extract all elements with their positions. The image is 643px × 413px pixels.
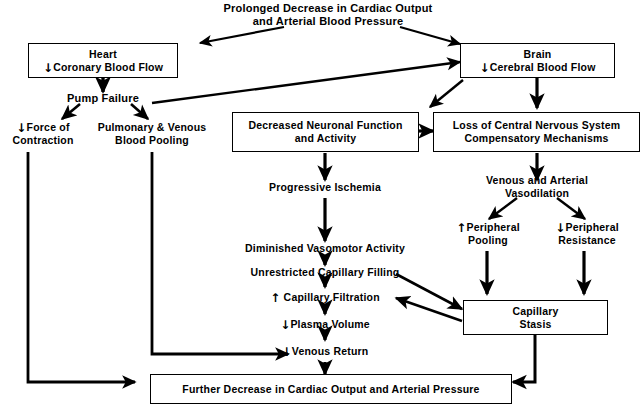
node-peripheral-pooling: ↑Peripheral Pooling bbox=[440, 221, 536, 247]
peripheral-pooling-label-1: Peripheral bbox=[466, 221, 519, 233]
node-progressive-ischemia: Progressive Ischemia bbox=[250, 181, 400, 194]
edge-stasis-to-further-decrease bbox=[513, 335, 535, 382]
down-arrow-icon: ↓ bbox=[282, 345, 292, 359]
capillary-filtration-text: ↑ Capillary Filtration bbox=[270, 291, 380, 303]
further-decrease-label: Further Decrease in Cardiac Output and A… bbox=[182, 383, 479, 396]
plasma-volume-text: ↓Plasma Volume bbox=[280, 318, 370, 330]
plasma-volume-label: Plasma Volume bbox=[290, 318, 369, 330]
vasomotor-label: Diminished Vasomotor Activity bbox=[245, 242, 405, 254]
node-venous-return: ↓Venous Return bbox=[262, 345, 388, 358]
down-arrow-icon: ↓ bbox=[479, 61, 489, 75]
capillary-filtration-label: Capillary Filtration bbox=[284, 291, 380, 303]
down-arrow-icon: ↓ bbox=[280, 318, 290, 332]
trigger-line-1: Prolonged Decrease in Cardiac Output bbox=[183, 2, 473, 15]
vasodilation-line-1: Venous and Arterial bbox=[470, 174, 604, 187]
up-arrow-icon: ↑ bbox=[270, 291, 280, 305]
edge-trigger-to-brain bbox=[400, 27, 460, 44]
node-cns-loss-box[interactable]: Loss of Central Nervous System Compensat… bbox=[433, 112, 640, 152]
node-vasomotor: Diminished Vasomotor Activity bbox=[232, 242, 418, 255]
node-capillary-stasis-box[interactable]: Capillary Stasis bbox=[463, 300, 608, 335]
node-vasodilation: Venous and Arterial Vasodilation bbox=[470, 174, 604, 200]
force-line-2: Contraction bbox=[0, 134, 86, 147]
node-neuronal-box[interactable]: Decreased Neuronal Function and Activity bbox=[232, 112, 419, 152]
edge-vasodilation-to-pooling bbox=[489, 198, 517, 219]
down-arrow-icon: ↓ bbox=[43, 61, 53, 75]
edge-pump-failure-to-brain bbox=[152, 62, 460, 103]
brain-detail-label: Cerebral Blood Flow bbox=[490, 61, 596, 73]
cns-loss-line-1: Loss of Central Nervous System bbox=[453, 119, 621, 132]
neuronal-line-1: Decreased Neuronal Function bbox=[248, 119, 402, 132]
blood-pooling-line-1: Pulmonary & Venous bbox=[88, 121, 216, 134]
flowchart-canvas: Prolonged Decrease in Cardiac Output and… bbox=[0, 0, 643, 413]
peripheral-resistance-line-2: Resistance bbox=[537, 234, 637, 247]
cns-loss-line-2: Compensatory Mechanisms bbox=[453, 132, 621, 145]
venous-return-label: Venous Return bbox=[292, 345, 369, 357]
edge-stasis-to-filtration bbox=[396, 298, 462, 321]
edge-brain-to-neuronal bbox=[430, 80, 463, 107]
node-trigger: Prolonged Decrease in Cardiac Output and… bbox=[183, 2, 473, 28]
node-capillary-filtration: ↑ Capillary Filtration bbox=[248, 291, 402, 304]
heart-title: Heart bbox=[43, 48, 163, 61]
capillary-stasis-line-1: Capillary bbox=[512, 305, 558, 318]
up-arrow-icon: ↑ bbox=[456, 221, 466, 235]
trigger-line-2: and Arterial Blood Pressure bbox=[183, 15, 473, 28]
heart-detail-label: Coronary Blood Flow bbox=[53, 61, 163, 73]
ischemia-label: Progressive Ischemia bbox=[269, 181, 381, 193]
venous-return-text: ↓Venous Return bbox=[282, 345, 369, 357]
edge-pump-failure-to-force bbox=[62, 104, 80, 119]
edge-force-to-further-decrease bbox=[28, 152, 135, 382]
edge-filling-to-stasis bbox=[396, 274, 462, 309]
node-further-decrease-box[interactable]: Further Decrease in Cardiac Output and A… bbox=[150, 374, 512, 404]
capillary-filling-label: Unrestricted Capillary Filling bbox=[251, 266, 400, 278]
node-blood-pooling: Pulmonary & Venous Blood Pooling bbox=[88, 121, 216, 147]
edge-pump-failure-to-pooling bbox=[131, 104, 148, 119]
force-line-1-label: Force of bbox=[27, 121, 70, 133]
node-peripheral-resistance: ↓Peripheral Resistance bbox=[537, 221, 637, 247]
heart-detail: ↓Coronary Blood Flow bbox=[43, 61, 163, 74]
edge-vasodilation-to-resistance bbox=[557, 198, 585, 219]
peripheral-resistance-line-1: ↓Peripheral bbox=[537, 221, 637, 234]
peripheral-pooling-line-2: Pooling bbox=[440, 234, 536, 247]
down-arrow-icon: ↓ bbox=[16, 121, 26, 135]
down-arrow-icon: ↓ bbox=[555, 221, 565, 235]
node-pump-failure: Pump Failure bbox=[53, 92, 153, 105]
brain-title: Brain bbox=[479, 48, 595, 61]
force-line-1: ↓Force of bbox=[0, 121, 86, 134]
brain-detail: ↓Cerebral Blood Flow bbox=[479, 61, 595, 74]
neuronal-line-2: and Activity bbox=[248, 132, 402, 145]
node-plasma-volume: ↓Plasma Volume bbox=[260, 318, 390, 331]
peripheral-resistance-label-1: Peripheral bbox=[565, 221, 618, 233]
peripheral-pooling-line-1: ↑Peripheral bbox=[440, 221, 536, 234]
node-force-of-contraction: ↓Force of Contraction bbox=[0, 121, 86, 147]
pump-failure-label: Pump Failure bbox=[67, 92, 139, 104]
node-heart-box[interactable]: Heart ↓Coronary Blood Flow bbox=[28, 43, 178, 78]
node-brain-box[interactable]: Brain ↓Cerebral Blood Flow bbox=[460, 43, 615, 78]
node-capillary-filling: Unrestricted Capillary Filling bbox=[238, 266, 412, 279]
capillary-stasis-line-2: Stasis bbox=[512, 318, 558, 331]
edge-trigger-to-heart bbox=[200, 27, 284, 43]
blood-pooling-line-2: Blood Pooling bbox=[88, 134, 216, 147]
vasodilation-line-2: Vasodilation bbox=[470, 187, 604, 200]
